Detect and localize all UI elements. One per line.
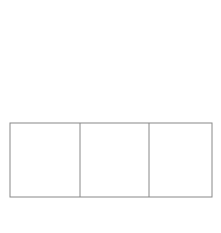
material-boxes [10,123,212,197]
material-box-outline [10,123,212,197]
diagram-canvas [0,0,221,233]
